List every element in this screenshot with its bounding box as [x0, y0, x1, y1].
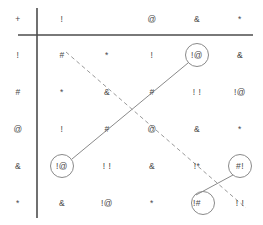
cell-r1-c1: &	[92, 83, 122, 101]
cell-r3-c3: !*	[182, 157, 212, 175]
header-cell-0: +	[3, 10, 33, 28]
cell-layer: +!@&*!#*!!@&#*&#! !!@@!#@&*&!@! !&!*#!*&…	[0, 0, 263, 225]
row-label-0: !	[3, 46, 33, 64]
cell-r3-c1: ! !	[92, 157, 122, 175]
cell-r0-c3: !@	[182, 46, 212, 64]
cell-r1-c3: ! !	[182, 83, 212, 101]
header-cell-4: &	[182, 10, 212, 28]
cell-r3-c2: &	[137, 157, 167, 175]
cell-r2-c3: &	[182, 120, 212, 138]
row-label-2: @	[3, 120, 33, 138]
cell-r2-c1: #	[92, 120, 122, 138]
symbol-grid-diagram: +!@&*!#*!!@&#*&#! !!@@!#@&*&!@! !&!*#!*&…	[0, 0, 263, 225]
cell-r4-c2: *	[137, 194, 167, 212]
cell-r3-c4: #!	[225, 157, 255, 175]
cell-r0-c1: *	[92, 46, 122, 64]
row-label-4: *	[3, 194, 33, 212]
cell-r2-c4: *	[225, 120, 255, 138]
header-cell-5: *	[225, 10, 255, 28]
row-label-3: &	[3, 157, 33, 175]
cell-r0-c2: !	[137, 46, 167, 64]
cell-r1-c4: !@	[225, 83, 255, 101]
cell-r1-c2: #	[137, 83, 167, 101]
cell-r4-c0: &	[47, 194, 77, 212]
cell-r4-c1: !@	[92, 194, 122, 212]
cell-r4-c4: ! !	[225, 194, 255, 212]
cell-r0-c4: &	[225, 46, 255, 64]
cell-r3-c0: !@	[47, 157, 77, 175]
cell-r2-c0: !	[47, 120, 77, 138]
cell-r1-c0: *	[47, 83, 77, 101]
row-label-1: #	[3, 83, 33, 101]
header-cell-1: !	[47, 10, 77, 28]
cell-r4-c3: !#	[182, 194, 212, 212]
header-cell-3: @	[137, 10, 167, 28]
cell-r0-c0: #	[47, 46, 77, 64]
cell-r2-c2: @	[137, 120, 167, 138]
